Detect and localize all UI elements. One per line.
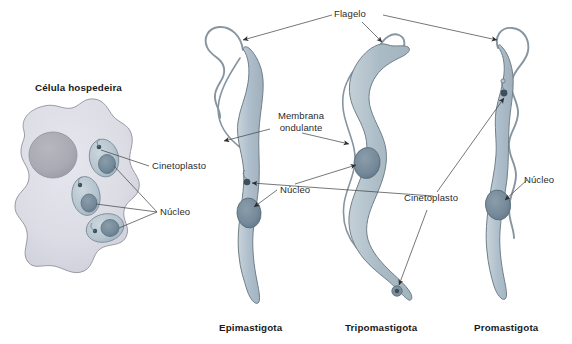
label-cinetoplasto-host: Cinetoplasto — [152, 160, 206, 172]
label-nucleo-promastigota: Núcleo — [524, 174, 554, 186]
parasite-life-stages-diagram: Célula hospedeira Flagelo Membrana ondul… — [0, 0, 572, 344]
form-name-tripomastigota: Tripomastigota — [345, 322, 417, 334]
form-name-promastigota: Promastigota — [474, 322, 538, 334]
host-cell-title: Célula hospedeira — [35, 82, 122, 94]
label-membrana-ondulante: Membrana ondulante — [270, 110, 332, 133]
leader-nucleo-tripomastigota — [295, 165, 356, 184]
diagram-canvas — [0, 0, 572, 344]
label-membrana-ondulante-line2: ondulante — [280, 122, 323, 133]
label-nucleo-host: Núcleo — [160, 206, 190, 218]
host-cell-group — [15, 99, 139, 273]
epimastigota-kinetoplast — [244, 179, 251, 186]
tripomastigota-kinetoplast-core — [395, 289, 399, 293]
promastigota-body — [486, 45, 513, 300]
host-cell-nucleus — [29, 132, 77, 178]
label-cinetoplasto-tripomastigota: Cinetoplasto — [404, 192, 458, 204]
label-flagelo: Flagelo — [334, 8, 366, 20]
epimastigota-group — [206, 27, 264, 303]
leader-lines — [96, 15, 527, 285]
leader-flagelo-tripomastigota — [362, 22, 382, 42]
promastigota-kinetoplast — [501, 90, 508, 97]
amastigote-2-nucleus — [81, 194, 97, 212]
epimastigota-body — [238, 47, 264, 304]
promastigota-group — [484, 28, 529, 299]
tripomastigota-group — [343, 34, 412, 300]
form-name-epimastigota: Epimastigota — [219, 322, 282, 334]
leader-membrana-ondulante-2 — [302, 133, 349, 144]
amastigote-1-nucleus — [99, 155, 116, 174]
leader-cinetoplasto-tripomastigota — [399, 210, 427, 285]
label-nucleo-epimastigota: Núcleo — [280, 184, 310, 196]
epimastigota-flagellum — [206, 27, 243, 118]
amastigote-3-nucleus — [101, 220, 119, 237]
label-membrana-ondulante-line1: Membrana — [278, 110, 324, 121]
promastigota-basal-body — [501, 79, 505, 83]
leader-flagelo-epimastigota — [243, 15, 332, 40]
